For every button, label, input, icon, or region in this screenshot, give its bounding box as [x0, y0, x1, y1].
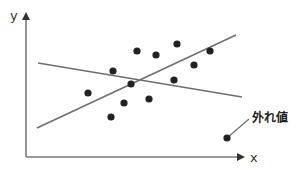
outlier-point — [223, 134, 230, 141]
scatter-diagram: y x 外れ値 — [0, 0, 299, 174]
data-point — [170, 76, 177, 83]
data-point — [145, 95, 152, 102]
data-points — [84, 40, 213, 120]
data-point — [206, 47, 213, 54]
data-point — [120, 99, 127, 106]
outlier-leader-line — [227, 119, 249, 138]
data-point — [190, 61, 197, 68]
data-point — [109, 67, 116, 74]
data-point — [133, 47, 140, 54]
data-point — [152, 51, 159, 58]
data-point — [173, 40, 180, 47]
data-point — [107, 113, 114, 120]
data-point — [84, 89, 91, 96]
outlier-label: 外れ値 — [252, 110, 288, 125]
diagram-canvas: y x 外れ値 — [0, 0, 299, 174]
y-axis-label: y — [10, 8, 18, 23]
x-axis-label: x — [250, 150, 258, 165]
data-point — [127, 80, 134, 87]
